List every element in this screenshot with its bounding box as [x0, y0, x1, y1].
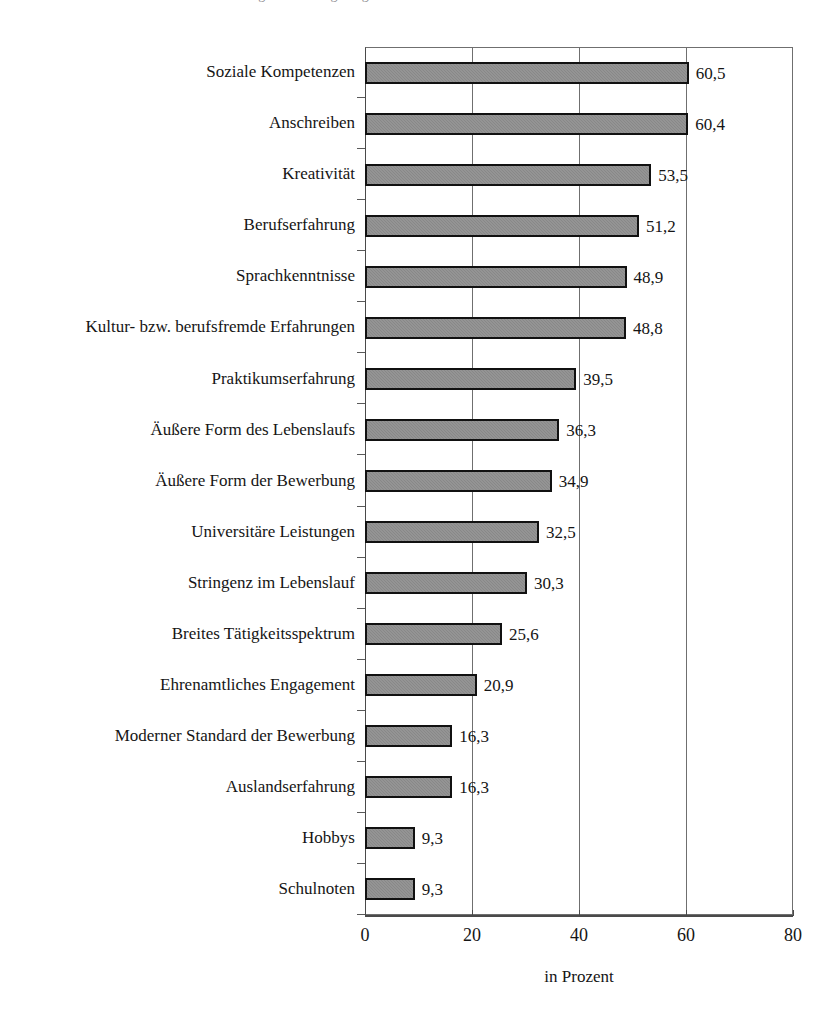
bar	[365, 827, 415, 849]
bar-value-label: 60,4	[695, 115, 725, 135]
bar	[365, 368, 576, 390]
category-label: Anschreiben	[0, 98, 355, 149]
bar	[365, 470, 552, 492]
category-label: Ehrenamtliches Engagement	[0, 660, 355, 711]
chart-row: Anschreiben60,4	[0, 98, 836, 149]
category-label: Äußere Form der Bewerbung	[0, 455, 355, 506]
category-label: Kreativität	[0, 149, 355, 200]
bar	[365, 215, 639, 237]
category-label: Kultur- bzw. berufsfremde Erfahrungen	[0, 302, 355, 353]
bar-value-label: 16,3	[459, 778, 489, 798]
x-tick-label: 80	[784, 925, 802, 946]
bar	[365, 878, 415, 900]
chart-row: Auslandserfahrung16,3	[0, 762, 836, 813]
x-tick-label: 20	[463, 925, 481, 946]
bar	[365, 62, 689, 84]
chart-row: Universitäre Leistungen32,5	[0, 507, 836, 558]
chart-row: Hobbys9,3	[0, 813, 836, 864]
category-label: Universitäre Leistungen	[0, 507, 355, 558]
chart-row: Stringenz im Lebenslauf30,3	[0, 558, 836, 609]
category-label: Stringenz im Lebenslauf	[0, 558, 355, 609]
chart-row: Sprachkenntnisse48,9	[0, 251, 836, 302]
chart-row: Berufserfahrung51,2	[0, 200, 836, 251]
y-axis-tick	[357, 914, 365, 915]
bar	[365, 164, 651, 186]
x-tick-40	[579, 910, 580, 916]
bar-value-label: 48,8	[633, 319, 663, 339]
chart-row: Äußere Form der Bewerbung34,9	[0, 455, 836, 506]
bar-value-label: 32,5	[546, 523, 576, 543]
bar	[365, 776, 452, 798]
bar	[365, 674, 477, 696]
x-tick-80	[793, 910, 794, 916]
category-label: Äußere Form des Lebenslaufs	[0, 404, 355, 455]
x-tick-label: 40	[570, 925, 588, 946]
bar-value-label: 51,2	[646, 217, 676, 237]
bar	[365, 725, 452, 747]
x-tick-60	[686, 910, 687, 916]
category-label: Moderner Standard der Bewerbung	[0, 711, 355, 762]
bar-value-label: 53,5	[658, 166, 688, 186]
chart-row: Kultur- bzw. berufsfremde Erfahrungen48,…	[0, 302, 836, 353]
bar	[365, 113, 688, 135]
category-label: Auslandserfahrung	[0, 762, 355, 813]
bar-value-label: 60,5	[696, 64, 726, 84]
category-label: Hobbys	[0, 813, 355, 864]
chart-row: Ehrenamtliches Engagement20,9	[0, 660, 836, 711]
category-label: Berufserfahrung	[0, 200, 355, 251]
x-tick-label: 0	[361, 925, 370, 946]
x-axis-title: in Prozent	[365, 967, 793, 987]
bar-value-label: 48,9	[634, 268, 664, 288]
chart-row: Kreativität53,5	[0, 149, 836, 200]
chart-row: Äußere Form des Lebenslaufs36,3	[0, 404, 836, 455]
bar-value-label: 39,5	[583, 370, 613, 390]
bar-value-label: 16,3	[459, 727, 489, 747]
x-tick-0	[365, 910, 366, 916]
chart-row: Soziale Kompetenzen60,5	[0, 47, 836, 98]
bar	[365, 572, 527, 594]
x-tick-20	[472, 910, 473, 916]
chart-row: Breites Tätigkeitsspektrum25,6	[0, 609, 836, 660]
category-label: Schulnoten	[0, 864, 355, 915]
bar-value-label: 36,3	[566, 421, 596, 441]
bar	[365, 521, 539, 543]
bar-value-label: 30,3	[534, 574, 564, 594]
category-label: Soziale Kompetenzen	[0, 47, 355, 98]
category-label: Sprachkenntnisse	[0, 251, 355, 302]
bar	[365, 419, 559, 441]
bar-chart: Soziale Kompetenzen60,5Anschreiben60,4Kr…	[0, 0, 836, 1026]
category-label: Praktikumserfahrung	[0, 353, 355, 404]
chart-row: Moderner Standard der Bewerbung16,3	[0, 711, 836, 762]
bar-value-label: 9,3	[422, 880, 443, 900]
bar	[365, 266, 627, 288]
bar	[365, 623, 502, 645]
bar	[365, 317, 626, 339]
chart-row: Praktikumserfahrung39,5	[0, 353, 836, 404]
bar-value-label: 34,9	[559, 472, 589, 492]
category-label: Breites Tätigkeitsspektrum	[0, 609, 355, 660]
chart-row: Schulnoten9,3	[0, 864, 836, 915]
bar-value-label: 25,6	[509, 625, 539, 645]
bar-value-label: 20,9	[484, 676, 514, 696]
bar-value-label: 9,3	[422, 829, 443, 849]
x-tick-label: 60	[677, 925, 695, 946]
